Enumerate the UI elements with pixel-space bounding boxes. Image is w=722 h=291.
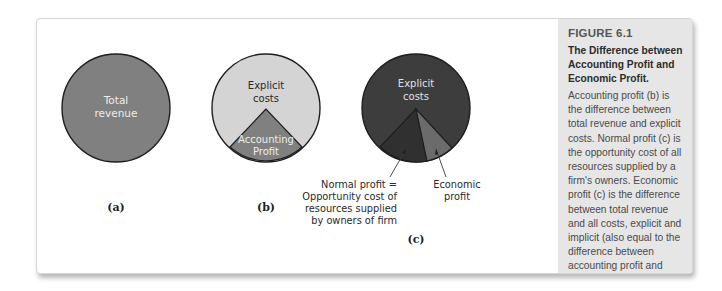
figure-card: Total revenue (a) Explicit costs Account… [36, 18, 693, 274]
normal-profit-line3: resources supplied [305, 203, 397, 214]
pie-c-explicit-line1: Explicit [398, 78, 434, 89]
pie-a-label-line1: Total [103, 94, 129, 106]
pie-c-explicit-line2: costs [403, 91, 429, 102]
pie-b-explicit-line2: costs [253, 93, 279, 104]
economic-profit-line1: Economic [433, 179, 480, 190]
normal-profit-line2: Opportunity cost of [302, 191, 397, 202]
pie-b-explicit-line1: Explicit [248, 80, 284, 91]
pie-a-label-line2: revenue [95, 107, 138, 119]
figure-title: The Difference between Accounting Profit… [568, 44, 684, 86]
normal-profit-line1: Normal profit = [321, 179, 397, 190]
panel-letter-c: (c) [407, 233, 424, 246]
pie-b-accounting-profit: Explicit costs Accounting Profit (b) [212, 54, 320, 214]
pie-b-wedge-line1: Accounting [238, 134, 294, 145]
panel-letter-b: (b) [257, 201, 275, 214]
normal-profit-line4: by owners of firm [311, 215, 397, 226]
figure-diagrams: Total revenue (a) Explicit costs Account… [37, 19, 557, 273]
economic-profit-line2: profit [444, 191, 470, 202]
figure-number: FIGURE 6.1 [568, 27, 684, 39]
pie-c-economic-profit: Explicit costs Normal profit = Opportuni… [302, 54, 481, 246]
pie-b-wedge-line2: Profit [253, 146, 279, 157]
figure-caption-text: Accounting profit (b) is the difference … [568, 89, 684, 274]
figure-caption-panel: FIGURE 6.1 The Difference between Accoun… [558, 19, 692, 273]
panel-letter-a: (a) [107, 201, 125, 214]
pie-a-total-revenue: Total revenue (a) [62, 54, 170, 214]
